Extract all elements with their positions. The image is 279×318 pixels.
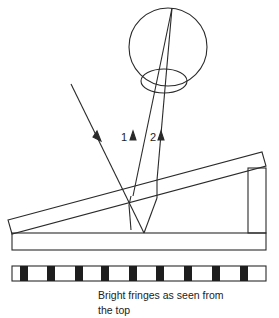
ray-1-label: 1 — [121, 131, 127, 143]
dark-fringe — [101, 266, 109, 281]
caption-line-1: Bright fringes as seen from — [98, 288, 268, 303]
dark-fringe — [240, 266, 248, 281]
dark-fringe — [75, 266, 83, 281]
dark-fringe — [20, 266, 28, 281]
dark-fringe — [47, 266, 55, 281]
dark-fringe — [212, 266, 220, 281]
caption-line-2: the top — [98, 303, 268, 318]
ray-1-arrow-icon — [130, 131, 136, 140]
ray-2-segment — [144, 198, 157, 233]
ray-2-label: 2 — [150, 131, 156, 143]
fringe-caption: Bright fringes as seen from the top — [98, 288, 268, 318]
air-wedge-diagram: 1 2 — [0, 0, 279, 318]
ray-2-arrow-icon — [158, 131, 164, 140]
base-glass-plate — [12, 233, 266, 250]
ray-1-segment — [129, 205, 131, 230]
eye-circle — [129, 8, 207, 86]
ray-2-to-eye — [157, 8, 172, 180]
top-glass-plate — [8, 152, 266, 234]
dark-fringe — [184, 266, 192, 281]
dark-fringe — [156, 266, 164, 281]
spacer — [248, 168, 266, 233]
dark-fringe — [129, 266, 137, 281]
dark-fringes — [20, 266, 248, 281]
ray-1-to-eye — [133, 8, 172, 196]
incident-ray — [71, 84, 144, 233]
